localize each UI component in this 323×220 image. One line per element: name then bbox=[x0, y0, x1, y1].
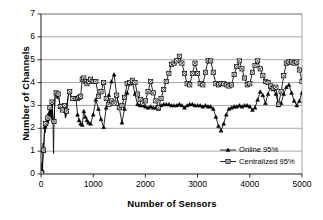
legend-marker-2 bbox=[226, 159, 230, 163]
data-point bbox=[44, 122, 48, 126]
data-point bbox=[282, 74, 286, 78]
data-point bbox=[109, 79, 113, 83]
x-tick-label-0: 0 bbox=[21, 179, 61, 189]
data-point bbox=[62, 103, 66, 107]
data-point bbox=[196, 71, 200, 75]
data-point bbox=[143, 99, 147, 103]
data-point bbox=[162, 87, 166, 91]
data-point bbox=[216, 124, 220, 128]
data-point bbox=[274, 85, 278, 89]
data-point bbox=[56, 92, 60, 96]
data-point bbox=[102, 80, 106, 84]
x-tick-label-5000: 5000 bbox=[282, 179, 322, 189]
data-point bbox=[149, 79, 153, 83]
y-tick-label-5: 5 bbox=[21, 54, 35, 64]
data-point bbox=[276, 102, 280, 106]
y-tick-marks bbox=[38, 14, 42, 174]
y-tick-label-4: 4 bbox=[21, 77, 35, 87]
data-point bbox=[46, 116, 50, 120]
data-point bbox=[164, 79, 168, 83]
data-point bbox=[232, 72, 236, 76]
data-point bbox=[146, 90, 150, 94]
data-point bbox=[248, 82, 252, 86]
data-point bbox=[253, 63, 257, 67]
x-axis-title: Number of Sensors bbox=[41, 198, 303, 209]
y-tick-label-6: 6 bbox=[21, 31, 35, 41]
data-point bbox=[290, 91, 294, 95]
legend-label-1: Online 95% bbox=[239, 145, 278, 154]
data-point bbox=[96, 107, 100, 111]
legend-markers-group bbox=[220, 148, 236, 164]
data-point bbox=[91, 113, 95, 117]
data-point bbox=[237, 59, 241, 63]
data-point bbox=[295, 60, 299, 64]
data-point bbox=[222, 122, 226, 126]
x-tick-marks bbox=[41, 174, 302, 178]
data-point bbox=[300, 79, 304, 83]
x-tick-label-3000: 3000 bbox=[178, 179, 218, 189]
y-tick-label-7: 7 bbox=[21, 8, 35, 18]
data-point bbox=[297, 99, 301, 103]
data-point bbox=[258, 67, 262, 71]
data-point bbox=[287, 83, 291, 87]
data-point bbox=[211, 70, 215, 74]
x-tick-label-1000: 1000 bbox=[73, 179, 113, 189]
data-point bbox=[68, 90, 72, 94]
data-point bbox=[48, 106, 52, 110]
gridlines-group bbox=[41, 14, 302, 151]
y-tick-label-0: 0 bbox=[21, 168, 35, 178]
data-point bbox=[120, 103, 124, 107]
data-point bbox=[94, 79, 98, 83]
data-point bbox=[96, 94, 100, 98]
data-point bbox=[50, 100, 54, 104]
legend-label-2: Centralized 95% bbox=[239, 157, 295, 166]
data-point bbox=[214, 115, 218, 119]
data-point bbox=[188, 83, 192, 87]
data-point bbox=[52, 119, 56, 123]
y-tick-label-3: 3 bbox=[21, 99, 35, 109]
data-point bbox=[167, 71, 171, 75]
data-point bbox=[256, 59, 260, 63]
data-point bbox=[261, 74, 265, 78]
data-point bbox=[203, 70, 207, 74]
data-point bbox=[151, 91, 155, 95]
data-point bbox=[242, 76, 246, 80]
data-point bbox=[115, 93, 119, 97]
data-point bbox=[60, 108, 64, 112]
data-point bbox=[250, 70, 254, 74]
data-point bbox=[292, 99, 296, 103]
data-point bbox=[258, 90, 262, 94]
data-point bbox=[297, 68, 301, 72]
data-point bbox=[266, 92, 270, 96]
data-point bbox=[79, 94, 83, 98]
y-tick-label-1: 1 bbox=[21, 145, 35, 155]
data-point bbox=[182, 71, 186, 75]
data-point bbox=[77, 118, 81, 122]
data-point bbox=[112, 101, 116, 105]
y-tick-label-2: 2 bbox=[21, 122, 35, 132]
data-point bbox=[154, 99, 158, 103]
data-point bbox=[279, 90, 283, 94]
data-point bbox=[253, 106, 257, 110]
data-point bbox=[235, 64, 239, 68]
data-point bbox=[99, 90, 103, 94]
chart-figure: Number of Channels Number of Sensors 010… bbox=[0, 0, 323, 220]
data-point bbox=[42, 148, 46, 152]
x-tick-label-2000: 2000 bbox=[125, 179, 165, 189]
data-point bbox=[240, 67, 244, 71]
data-point bbox=[229, 83, 233, 87]
data-point bbox=[175, 59, 179, 63]
data-point bbox=[122, 95, 126, 99]
data-point bbox=[159, 96, 163, 100]
data-point bbox=[300, 91, 304, 95]
data-point bbox=[256, 98, 260, 102]
x-tick-label-4000: 4000 bbox=[230, 179, 270, 189]
data-point bbox=[112, 73, 116, 77]
data-point bbox=[133, 80, 137, 84]
data-point bbox=[177, 54, 181, 58]
data-point bbox=[190, 71, 194, 75]
data-point bbox=[209, 59, 213, 63]
data-point bbox=[82, 109, 86, 113]
data-point bbox=[104, 96, 108, 100]
data-point bbox=[83, 115, 87, 119]
